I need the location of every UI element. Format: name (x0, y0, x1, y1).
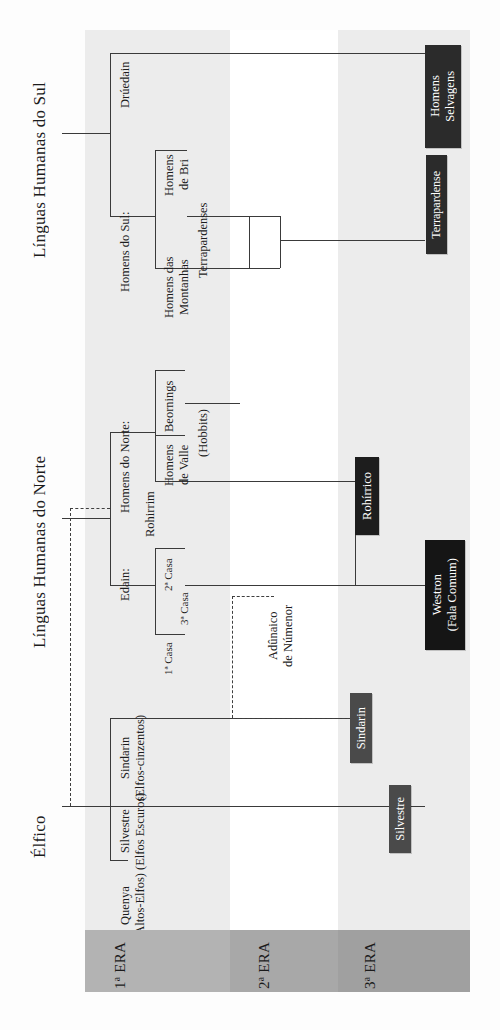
line-homens-do-norte-spine (155, 370, 156, 481)
dashed-sindarin-influence-v (232, 596, 233, 718)
node-casa2: 2ª Casa (162, 546, 175, 604)
node-homens-de-valle: Homens de Valle (162, 432, 192, 498)
dashed-sindarin-influence-h (232, 718, 350, 719)
era-stripe-2 (230, 30, 338, 930)
node-homens-do-norte-label: Homens do Norte: (118, 420, 132, 512)
node-hobbits-label: (Hobbits) (196, 409, 210, 457)
box-westron-label: Westron (Fala Comum) (430, 558, 460, 631)
line-terrapardenses-out (280, 240, 425, 241)
heading-linguas-humanas-do-norte: Línguas Humanas do Norte (30, 398, 50, 648)
node-druedain: Drúedain (118, 50, 133, 120)
language-tree-diagram: Línguas Humanas do Sul Línguas Humanas d… (0, 0, 500, 1030)
line-edain-spine (155, 548, 156, 634)
node-casa1-label: 1ª Casa (162, 643, 174, 676)
line-norte-spine (110, 432, 111, 585)
line-hobbits (185, 403, 240, 404)
node-homens-do-sul-label: Homens do Sul: (118, 212, 132, 293)
box-homens-selvagens-label: Homens Selvagens (428, 71, 458, 122)
line-casa3 (185, 585, 425, 586)
box-silvestre[interactable]: Silvestre (389, 785, 411, 853)
node-casa3-label: 3ª Casa (178, 593, 190, 626)
node-druedain-label: Drúedain (118, 62, 132, 109)
node-homens-de-bri: Homens de Bri (162, 144, 192, 206)
node-casa2-label: 2ª Casa (162, 559, 174, 592)
box-homens-selvagens[interactable]: Homens Selvagens (425, 45, 461, 148)
node-homens-de-bri-label: Homens de Bri (162, 154, 191, 196)
heading-elfico: Élfico (30, 768, 50, 858)
line-silvestre-out (110, 806, 425, 807)
box-rohirrico-label: Rohírrico (360, 472, 375, 520)
era-band-2 (230, 930, 338, 992)
node-edain-label: Edain: (118, 569, 132, 602)
era-label-1-text: 1ª ERA (112, 942, 128, 989)
line-quenya-stub (110, 806, 111, 860)
era-label-3: 3ª ERA (362, 935, 379, 989)
node-rohirrim: Rohirrim (143, 480, 158, 548)
line-homens-do-sul-spine (155, 150, 156, 268)
node-terrapardenses: Terrapardenses (196, 190, 211, 290)
box-rohirrico[interactable]: Rohírrico (355, 457, 379, 535)
box-terrapardense-label: Terrapardense (429, 171, 443, 239)
line-sul-spine (110, 53, 111, 216)
node-hobbits: (Hobbits) (196, 400, 211, 466)
era-label-2-text: 2ª ERA (256, 942, 272, 989)
era-label-3-text: 3ª ERA (362, 942, 378, 989)
node-homens-de-valle-label: Homens de Valle (162, 444, 191, 486)
heading-linguas-humanas-do-sul: Línguas Humanas do Sul (30, 38, 50, 258)
era-band-3 (338, 930, 470, 992)
line-terrapardenses-right (280, 216, 281, 268)
dashed-elvish-to-norte (70, 508, 110, 509)
era-label-1: 1ª ERA (112, 935, 129, 989)
box-sindarin-label: Sindarin (354, 707, 369, 749)
node-terrapardenses-label: Terrapardenses (196, 202, 210, 277)
line-elfico-root (62, 806, 110, 807)
line-terrapardense-drop (249, 216, 250, 268)
box-westron[interactable]: Westron (Fala Comum) (425, 540, 465, 650)
node-beornings-label: Beornings (162, 380, 176, 431)
line-druedain (110, 53, 425, 54)
era-label-2: 2ª ERA (256, 935, 273, 989)
heading-sul-label: Línguas Humanas do Sul (30, 82, 49, 258)
node-edain: Edain: (118, 558, 133, 612)
node-adunaico-label: Adûnaico de Númenor (266, 605, 295, 667)
dashed-elvish-to-edain-vertical (70, 508, 71, 806)
node-rohirrim-label: Rohirrim (143, 491, 157, 537)
node-adunaico-de-numenor: Adûnaico de Númenor (266, 588, 296, 684)
node-casa1: 1ª Casa (162, 630, 175, 688)
era-band-1 (85, 930, 230, 992)
node-homens-das-montanhas: Homens das Montanhas (162, 242, 192, 332)
node-homens-do-sul: Homens do Sul: (118, 192, 133, 312)
box-silvestre-label: Silvestre (393, 797, 408, 841)
node-homens-do-norte: Homens do Norte: (118, 404, 133, 529)
heading-norte-label: Línguas Humanas do Norte (30, 456, 49, 648)
box-terrapardense[interactable]: Terrapardense (426, 155, 447, 254)
heading-elfico-label: Élfico (30, 815, 49, 858)
node-casa3: 3ª Casa (178, 580, 191, 638)
box-sindarin[interactable]: Sindarin (350, 693, 372, 763)
node-homens-das-montanhas-label: Homens das Montanhas (162, 256, 191, 317)
line-sul-root (62, 133, 110, 134)
